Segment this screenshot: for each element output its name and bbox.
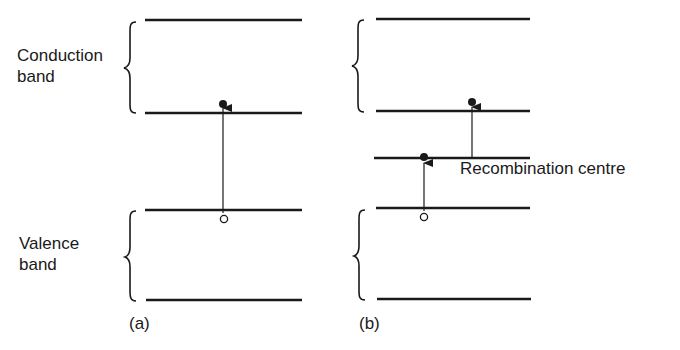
valence-label-line2: band (19, 254, 79, 275)
conduction-label-line2: band (17, 66, 103, 87)
electron-dot-a (219, 100, 227, 108)
caption-a: (a) (129, 313, 150, 334)
conduction-label-line1: Conduction (17, 45, 103, 66)
valence-band-label: Valence band (19, 233, 79, 275)
caption-b: (b) (359, 313, 380, 334)
valence-band-brace-b (354, 210, 365, 300)
hole-circle-a (220, 215, 227, 222)
conduction-band-label: Conduction band (17, 45, 103, 87)
valence-label-line1: Valence (19, 233, 79, 254)
panel-a (124, 20, 302, 301)
electron-dot-b-conduction (468, 98, 476, 106)
conduction-band-brace (124, 22, 136, 113)
conduction-band-brace-b (352, 20, 364, 112)
valence-band-brace (125, 211, 136, 301)
recombination-centre-label: Recombination centre (460, 158, 625, 179)
electron-dot-b-centre (420, 153, 428, 161)
hole-circle-b (420, 213, 427, 220)
